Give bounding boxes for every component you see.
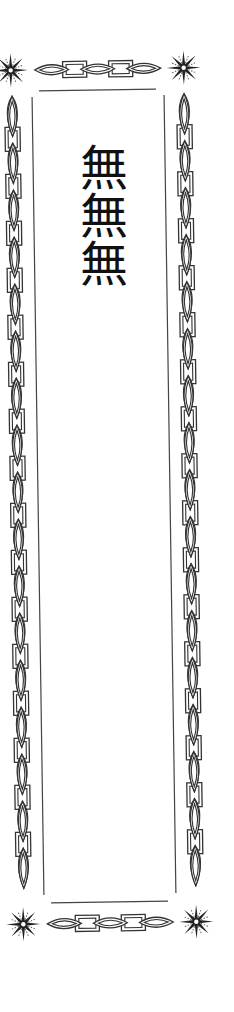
vertical-calligraphy-text: 無無無 (74, 143, 126, 287)
starburst-icon (179, 904, 214, 939)
inner-line-bottom (51, 901, 168, 903)
top-chain (35, 60, 161, 78)
starburst-icon (6, 907, 41, 942)
inner-line-top (39, 89, 156, 91)
starburst-icon (166, 51, 201, 86)
left-chain (5, 96, 32, 888)
starburst-icon (0, 53, 28, 88)
inner-line-left (32, 97, 44, 895)
right-chain (177, 94, 204, 886)
bottom-chain (47, 914, 173, 932)
inner-line-right (164, 95, 176, 893)
